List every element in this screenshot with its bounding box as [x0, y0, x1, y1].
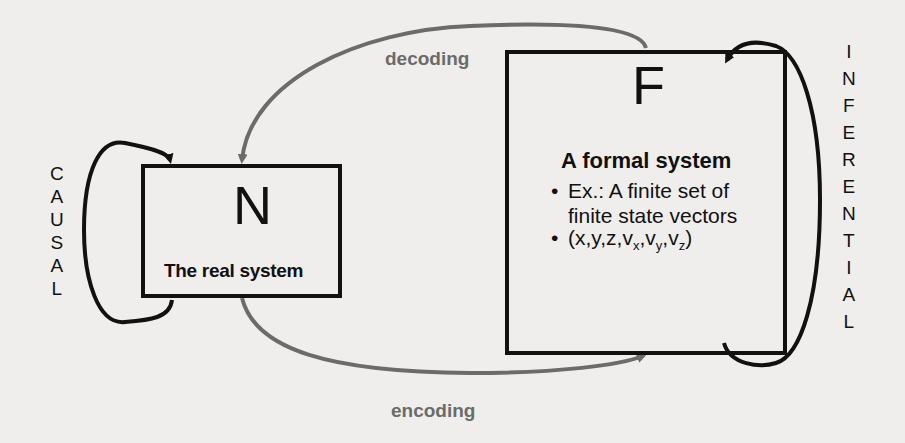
causal-letter: A	[51, 185, 64, 208]
inferential-label: I N F E R E N T I A L	[842, 38, 856, 335]
causal-letter: U	[50, 208, 64, 231]
inferential-letter: T	[843, 227, 855, 254]
bullet-dot: •	[551, 178, 568, 203]
inferential-letter: F	[843, 92, 855, 119]
bullet-dot: •	[551, 225, 568, 250]
formal-system-title: A formal system	[561, 148, 731, 174]
decoding-label: decoding	[385, 48, 469, 70]
inferential-letter: E	[843, 119, 856, 146]
natural-system-symbol: N	[233, 178, 272, 232]
inferential-letter: I	[846, 38, 851, 65]
modeling-relation-diagram: C A U S A L N The real system decoding e…	[0, 0, 905, 443]
inferential-letter: L	[844, 308, 855, 335]
causal-letter: C	[50, 162, 64, 185]
inferential-letter: I	[846, 254, 851, 281]
inferential-letter: N	[842, 65, 856, 92]
formal-system-symbol: F	[632, 58, 665, 112]
causal-label: C A U S A L	[50, 162, 64, 300]
inferential-letter: R	[842, 146, 856, 173]
state-vector-text: ,v	[639, 226, 655, 249]
formal-system-bullet-1: •Ex.: A finite set of	[551, 178, 729, 203]
natural-system-caption: The real system	[164, 260, 303, 282]
inferential-letter: E	[843, 173, 856, 200]
inferential-letter: N	[842, 200, 856, 227]
causal-letter: L	[52, 277, 63, 300]
state-vector-text: (x,y,z,v	[568, 226, 633, 249]
causal-letter: A	[51, 254, 64, 277]
bullet-text: Ex.: A finite set of	[568, 179, 729, 202]
encoding-label: encoding	[391, 400, 475, 422]
causal-letter: S	[51, 231, 64, 254]
state-vector-text: ,v	[662, 226, 678, 249]
inferential-letter: A	[843, 281, 856, 308]
state-vector-text: )	[685, 226, 692, 249]
formal-system-bullet-2: •(x,y,z,vx,vy,vz)	[551, 225, 692, 258]
